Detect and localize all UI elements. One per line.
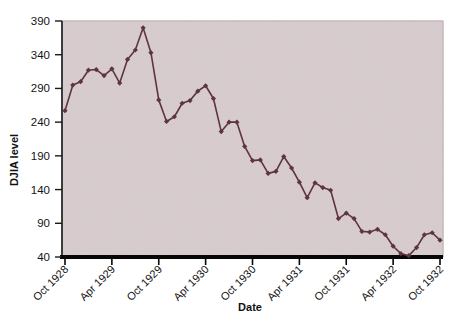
x-tick-label: Oct 1930 xyxy=(218,263,258,303)
chart-figure: 4090140190240290340390 Oct 1928Apr 1929O… xyxy=(0,0,473,329)
y-tick-label: 390 xyxy=(31,15,50,27)
x-tick-label: Apr 1931 xyxy=(265,263,305,303)
y-tick-label: 240 xyxy=(31,116,50,128)
y-tick-label: 140 xyxy=(31,184,50,196)
x-tick-label: Oct 1929 xyxy=(124,263,164,303)
y-tick-label: 290 xyxy=(31,82,50,94)
y-tick-label: 90 xyxy=(37,217,50,229)
x-tick-label: Apr 1929 xyxy=(77,263,117,303)
x-tick-label: Oct 1928 xyxy=(30,263,70,303)
djia-line-chart: 4090140190240290340390 Oct 1928Apr 1929O… xyxy=(0,0,473,329)
y-axis-tick-labels: 4090140190240290340390 xyxy=(31,15,50,263)
y-axis-ticks xyxy=(55,21,62,257)
x-tick-label: Apr 1932 xyxy=(358,263,398,303)
y-tick-label: 40 xyxy=(37,251,50,263)
x-tick-label: Apr 1930 xyxy=(171,263,211,303)
x-axis-tick-labels: Oct 1928Apr 1929Oct 1929Apr 1930Oct 1930… xyxy=(30,263,445,303)
x-tick-label: Oct 1931 xyxy=(312,263,352,303)
x-tick-label: Oct 1932 xyxy=(405,263,445,303)
y-axis-title: DJIA level xyxy=(8,134,20,186)
y-tick-label: 190 xyxy=(31,150,50,162)
y-tick-label: 340 xyxy=(31,49,50,61)
plot-area-texture xyxy=(62,21,443,257)
x-axis-title: Date xyxy=(238,301,262,313)
